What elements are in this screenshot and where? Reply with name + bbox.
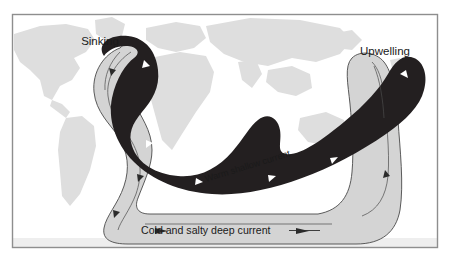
label-upwelling: Upwelling [360, 45, 410, 57]
diagram-canvas: Sinking Upwelling Warm shallow current C… [0, 0, 454, 262]
label-cold-salty-deep-current: Cold and salty deep current [141, 224, 271, 236]
label-sinking: Sinking [81, 35, 119, 47]
ocean-conveyor-diagram: Sinking Upwelling Warm shallow current C… [0, 0, 454, 262]
